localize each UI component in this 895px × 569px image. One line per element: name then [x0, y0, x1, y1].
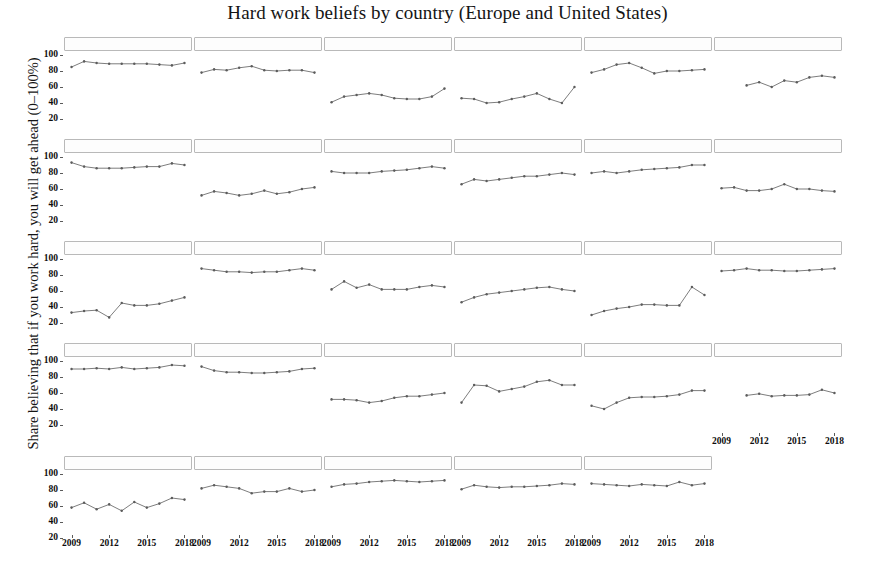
y-axis-tick-mark	[60, 275, 63, 276]
data-point-marker	[70, 506, 72, 509]
data-point-marker	[238, 487, 240, 490]
data-point-marker	[628, 62, 630, 65]
panel-title-strip	[64, 343, 192, 357]
data-point-marker	[213, 269, 215, 272]
data-point-marker	[108, 167, 110, 170]
data-point-marker	[406, 395, 408, 398]
facet-panel-france	[454, 139, 582, 229]
data-point-marker	[238, 194, 240, 197]
data-point-marker	[691, 164, 693, 167]
data-point-marker	[443, 479, 445, 482]
facet-panel-denmark	[64, 139, 192, 229]
data-point-marker	[720, 270, 722, 273]
y-axis-tick-label: 20	[26, 533, 58, 543]
data-point-marker	[95, 309, 97, 312]
facet-panel-spain	[194, 456, 322, 546]
x-axis-tick-mark	[629, 535, 630, 538]
data-point-marker	[666, 395, 668, 398]
series-line	[332, 480, 445, 486]
data-point-marker	[603, 68, 605, 71]
data-point-marker	[171, 162, 173, 165]
data-point-marker	[238, 371, 240, 374]
data-point-marker	[833, 76, 835, 79]
data-point-marker	[225, 486, 227, 489]
panel-plot-area	[194, 357, 322, 433]
data-point-marker	[225, 271, 227, 274]
data-point-marker	[628, 170, 630, 173]
y-axis-tick-label: 80	[26, 66, 58, 76]
data-point-marker	[473, 296, 475, 299]
data-point-marker	[406, 288, 408, 291]
series-line	[592, 63, 705, 73]
data-point-marker	[703, 164, 705, 167]
data-point-marker	[158, 303, 160, 306]
series-line	[722, 269, 835, 271]
data-point-marker	[523, 95, 525, 98]
data-point-marker	[70, 161, 72, 164]
panel-plot-area	[64, 153, 192, 229]
x-axis-tick-mark	[759, 433, 760, 436]
data-point-marker	[561, 288, 563, 291]
y-axis-tick-label: 20	[26, 114, 58, 124]
x-axis-tick-label: 2009	[56, 539, 88, 549]
data-point-marker	[745, 84, 747, 87]
data-point-marker	[678, 393, 680, 396]
x-axis-tick-mark	[834, 433, 835, 436]
data-point-marker	[251, 65, 253, 68]
x-axis-tick-label: 2015	[781, 437, 813, 447]
series-line	[462, 287, 575, 302]
data-point-marker	[263, 189, 265, 192]
data-point-marker	[796, 81, 798, 84]
data-point-marker	[343, 398, 345, 401]
facet-panel-greece	[714, 139, 842, 229]
x-axis-tick-mark	[184, 535, 185, 538]
data-point-marker	[95, 508, 97, 511]
data-point-marker	[511, 388, 513, 391]
data-point-marker	[678, 304, 680, 307]
data-point-marker	[121, 63, 123, 66]
data-point-marker	[783, 79, 785, 82]
data-point-marker	[771, 86, 773, 89]
facet-panel-latvia	[454, 241, 582, 331]
x-axis-tick-mark	[537, 535, 538, 538]
data-point-marker	[603, 310, 605, 313]
data-point-marker	[133, 304, 135, 307]
data-point-marker	[511, 98, 513, 101]
y-axis-tick-label: 100	[26, 254, 58, 264]
data-point-marker	[171, 497, 173, 500]
x-axis-tick-mark	[202, 535, 203, 538]
panel-title-strip	[454, 241, 582, 255]
data-point-marker	[536, 381, 538, 384]
panel-title-strip	[584, 343, 712, 357]
data-point-marker	[251, 193, 253, 196]
data-point-marker	[573, 86, 575, 89]
data-point-marker	[263, 271, 265, 274]
x-axis-tick-mark	[239, 535, 240, 538]
data-point-marker	[70, 368, 72, 371]
data-point-marker	[691, 484, 693, 487]
x-axis-tick-mark	[499, 535, 500, 538]
y-axis-tick-label: 60	[26, 82, 58, 92]
facet-panel-portugal	[454, 343, 582, 433]
data-point-marker	[238, 271, 240, 274]
y-axis-tick-mark	[60, 409, 63, 410]
data-point-marker	[288, 69, 290, 72]
series-line	[332, 167, 445, 173]
data-point-marker	[511, 177, 513, 180]
data-point-marker	[485, 385, 487, 388]
y-axis-tick-label: 20	[26, 420, 58, 430]
data-point-marker	[485, 180, 487, 183]
panel-title-strip	[584, 241, 712, 255]
data-point-marker	[758, 393, 760, 396]
data-point-marker	[213, 484, 215, 487]
data-point-marker	[330, 288, 332, 291]
data-point-marker	[133, 368, 135, 371]
series-line	[592, 391, 705, 409]
x-axis-tick-mark	[444, 535, 445, 538]
panel-plot-area	[584, 153, 712, 229]
y-axis-tick-label: 80	[26, 372, 58, 382]
data-point-marker	[225, 69, 227, 72]
x-axis-tick-mark	[407, 535, 408, 538]
data-point-marker	[95, 167, 97, 170]
data-point-marker	[355, 94, 357, 97]
